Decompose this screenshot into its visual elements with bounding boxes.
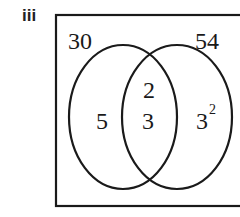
intersection-bottom-value: 3 [142, 108, 154, 134]
set-a-label: 30 [68, 28, 92, 54]
only-b-base: 3 [196, 108, 208, 134]
only-a-value: 5 [96, 108, 108, 134]
set-b-label: 54 [195, 28, 219, 54]
venn-diagram: 30 54 5 2 3 3 2 [0, 0, 240, 217]
intersection-top-value: 2 [143, 77, 155, 103]
only-b-exponent: 2 [209, 102, 216, 117]
